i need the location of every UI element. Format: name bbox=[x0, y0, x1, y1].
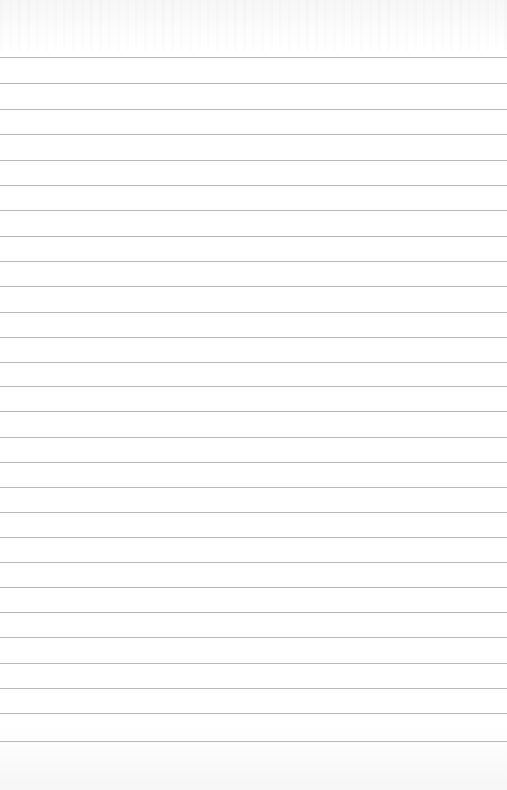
ruled-line bbox=[0, 462, 507, 463]
ruled-line bbox=[0, 512, 507, 513]
ruled-line bbox=[0, 362, 507, 363]
ruled-line bbox=[0, 637, 507, 638]
ruled-line bbox=[0, 134, 507, 135]
ruled-line bbox=[0, 109, 507, 110]
ruled-line bbox=[0, 713, 507, 714]
faint-bleed-through-band bbox=[0, 0, 507, 50]
ruled-line bbox=[0, 337, 507, 338]
ruled-line bbox=[0, 160, 507, 161]
ruled-line bbox=[0, 210, 507, 211]
ruled-line bbox=[0, 57, 507, 58]
ruled-line bbox=[0, 286, 507, 287]
ruled-line bbox=[0, 562, 507, 563]
ruled-line bbox=[0, 386, 507, 387]
ruled-line bbox=[0, 236, 507, 237]
ruled-line bbox=[0, 612, 507, 613]
ruled-line bbox=[0, 537, 507, 538]
ruled-line bbox=[0, 487, 507, 488]
ruled-line bbox=[0, 83, 507, 84]
ruled-line bbox=[0, 741, 507, 742]
ruled-line bbox=[0, 437, 507, 438]
ruled-line bbox=[0, 411, 507, 412]
ruled-line bbox=[0, 688, 507, 689]
ruled-line bbox=[0, 663, 507, 664]
lined-paper-sheet bbox=[0, 0, 507, 790]
ruled-line bbox=[0, 312, 507, 313]
ruled-line bbox=[0, 261, 507, 262]
ruled-line bbox=[0, 587, 507, 588]
ruled-line bbox=[0, 185, 507, 186]
